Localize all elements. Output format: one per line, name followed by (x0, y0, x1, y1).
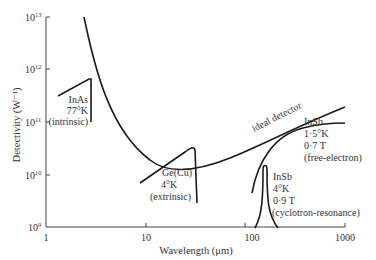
svg-text:(intrinsic): (intrinsic) (49, 116, 88, 128)
svg-text:4°K: 4°K (273, 183, 290, 194)
x-tick-100: 100 (245, 232, 260, 243)
x-tick-1000: 1000 (335, 232, 355, 243)
svg-text:Ge(Cu): Ge(Cu) (162, 167, 192, 179)
inas-label: InAs 77°K (intrinsic) (49, 94, 89, 128)
svg-text:4°K: 4°K (161, 179, 178, 190)
y-tick-labels: 1013 1012 1011 1010 109 (25, 11, 42, 233)
insb-cyclotron-label: InSb 4°K 0·9 T (cyclotron-resonance) (272, 171, 360, 219)
x-tick-10: 10 (141, 232, 151, 243)
svg-text:InSb: InSb (304, 116, 323, 127)
y-tick-1e11: 1011 (25, 116, 41, 128)
y-tick-1e10: 1010 (25, 169, 42, 181)
svg-text:0·9 T: 0·9 T (273, 195, 295, 206)
svg-text:InAs: InAs (69, 94, 89, 105)
x-tick-1: 1 (44, 232, 49, 243)
svg-text:(cyclotron-resonance): (cyclotron-resonance) (272, 207, 360, 219)
y-axis-label: Detectivity (W⁻¹) (11, 87, 23, 162)
svg-text:(extrinsic): (extrinsic) (150, 191, 191, 203)
y-tick-1e13: 1013 (25, 11, 42, 23)
svg-text:(free-electron): (free-electron) (304, 152, 362, 164)
x-tick-labels: 1 10 100 1000 (44, 232, 356, 243)
svg-text:InSb: InSb (273, 171, 292, 182)
svg-text:0·7 T: 0·7 T (304, 140, 326, 151)
svg-text:1·5°K: 1·5°K (304, 128, 329, 139)
x-axis-label: Wavelength (μm) (159, 245, 233, 257)
y-tick-1e9: 109 (28, 221, 41, 233)
svg-text:77°K: 77°K (67, 105, 89, 116)
detectivity-chart: 1013 1012 1011 1010 109 1 10 100 1000 Wa… (0, 0, 376, 260)
y-tick-1e12: 1012 (25, 63, 42, 75)
